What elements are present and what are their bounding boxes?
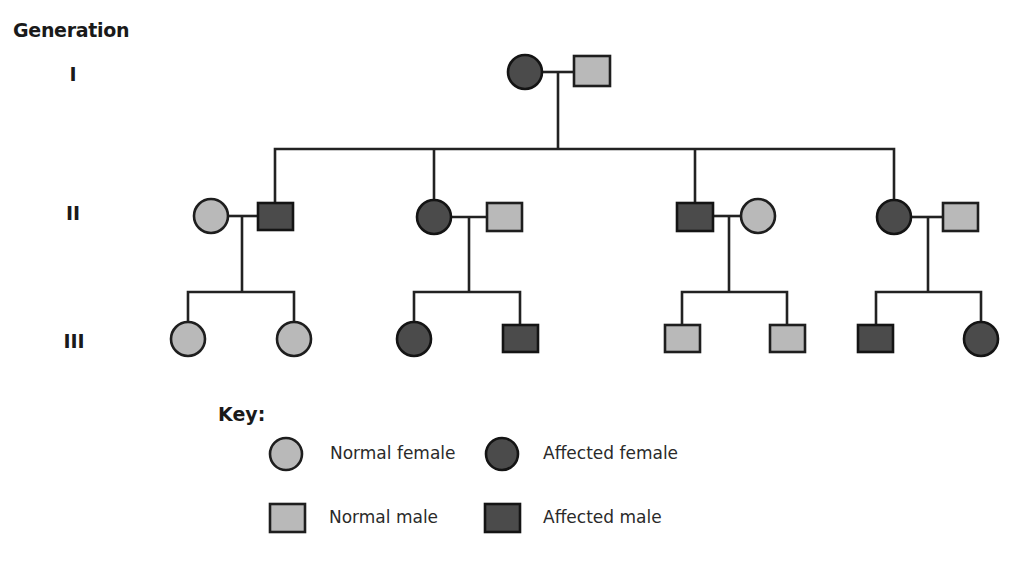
- normal-male-symbol: [665, 325, 700, 352]
- family-4: [858, 200, 998, 356]
- key-normal-male-icon: [270, 504, 305, 532]
- key-label-normal-male: Normal male: [329, 507, 438, 527]
- normal-female-symbol: [171, 322, 205, 356]
- sibship-line-iii: [414, 292, 520, 325]
- affected-male-symbol: [677, 203, 713, 231]
- affected-female-symbol: [964, 322, 998, 356]
- affected-male-symbol: [258, 203, 293, 230]
- affected-male-symbol: [503, 325, 538, 352]
- key-label-affected-female: Affected female: [543, 443, 678, 463]
- affected-female-symbol: [417, 200, 451, 234]
- key-label-affected-male: Affected male: [543, 507, 662, 527]
- sibship-line-ii: [275, 149, 894, 203]
- normal-female-symbol: [741, 199, 775, 233]
- sibship-line-iii: [876, 292, 981, 325]
- generation-i: [508, 55, 610, 149]
- affected-female-symbol: [877, 200, 911, 234]
- pedigree-chart: [0, 0, 1020, 566]
- key-affected-female-icon: [486, 438, 518, 470]
- family-3: [665, 199, 805, 352]
- family-1: [171, 199, 311, 356]
- normal-male-symbol: [487, 203, 522, 231]
- normal-male-symbol: [943, 203, 978, 231]
- affected-female-symbol: [397, 322, 431, 356]
- normal-female-symbol: [277, 322, 311, 356]
- normal-female-symbol: [194, 199, 228, 233]
- key-normal-female-icon: [270, 438, 302, 470]
- sibship-line-iii: [188, 292, 294, 322]
- family-2: [397, 200, 538, 356]
- sibship-line-iii: [682, 292, 787, 325]
- key-label-normal-female: Normal female: [330, 443, 456, 463]
- affected-male-symbol: [858, 325, 893, 352]
- normal-male-symbol: [574, 56, 610, 86]
- affected-female-symbol: [508, 55, 542, 89]
- key-affected-male-icon: [485, 504, 520, 532]
- normal-male-symbol: [770, 325, 805, 352]
- key-title: Key:: [218, 403, 265, 425]
